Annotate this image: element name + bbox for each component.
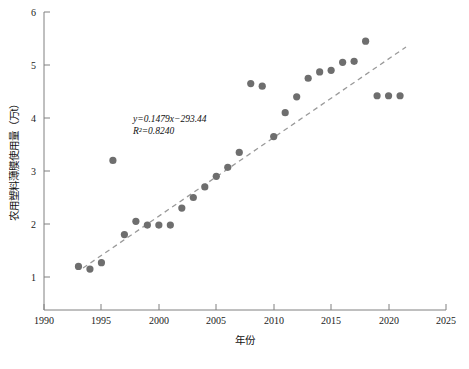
x-tick-label-2010: 2010	[264, 315, 284, 326]
data-point	[293, 93, 300, 100]
x-tick-label-2015: 2015	[321, 315, 341, 326]
data-point	[224, 164, 231, 171]
y-tick-label-3: 3	[31, 166, 36, 177]
y-tick-label-1: 1	[31, 272, 36, 283]
equation-line-2: R²=0.8240	[132, 126, 174, 136]
axes	[44, 12, 446, 310]
data-point	[396, 92, 403, 99]
x-tick-label-2020: 2020	[379, 315, 399, 326]
y-tick-label-5: 5	[31, 60, 36, 71]
data-point	[247, 80, 254, 87]
y-tick-label-6: 6	[31, 7, 36, 18]
data-point	[201, 183, 208, 190]
equation-line-1: y=0.1479x−293.44	[132, 114, 207, 124]
data-point	[178, 205, 185, 212]
y-tick-label-4: 4	[31, 113, 36, 124]
y-axis-tick-labels: 6 5 4 3 2 1	[31, 7, 36, 283]
data-point	[190, 194, 197, 201]
scatter-chart: 6 5 4 3 2 1 1990 1995 2000 2005 2010 201…	[0, 0, 469, 369]
data-point	[236, 149, 243, 156]
data-point	[316, 68, 323, 75]
x-tick-label-2025: 2025	[436, 315, 456, 326]
x-axis-title: 年份	[235, 334, 256, 346]
data-point-group	[75, 38, 404, 273]
data-point	[305, 75, 312, 82]
data-point	[167, 221, 174, 228]
y-axis-ticks	[44, 12, 50, 277]
regression-trendline	[83, 47, 406, 268]
data-point	[132, 218, 139, 225]
data-point	[362, 38, 369, 45]
data-point	[373, 92, 380, 99]
data-point	[75, 263, 82, 270]
x-axis-tick-labels: 1990 1995 2000 2005 2010 2015 2020 2025	[34, 315, 456, 326]
data-point	[385, 92, 392, 99]
x-tick-label-1995: 1995	[91, 315, 111, 326]
data-point	[282, 109, 289, 116]
x-axis-ticks	[44, 304, 446, 310]
data-point	[109, 157, 116, 164]
x-tick-label-2000: 2000	[149, 315, 169, 326]
data-point	[155, 221, 162, 228]
data-point	[259, 83, 266, 90]
trend-line-group	[83, 47, 406, 268]
data-point	[98, 259, 105, 266]
data-point	[270, 133, 277, 140]
data-point	[144, 221, 151, 228]
data-point	[121, 231, 128, 238]
data-point	[328, 67, 335, 74]
x-tick-label-2005: 2005	[206, 315, 226, 326]
y-axis-title: 农用塑料薄膜使用量（万t）	[8, 99, 20, 222]
figure-container: 6 5 4 3 2 1 1990 1995 2000 2005 2010 201…	[0, 0, 469, 369]
y-tick-label-2: 2	[31, 219, 36, 230]
data-point	[351, 58, 358, 65]
data-point	[213, 173, 220, 180]
x-tick-label-1990: 1990	[34, 315, 54, 326]
equation-annotation: y=0.1479x−293.44 R²=0.8240	[132, 114, 207, 136]
data-point	[86, 265, 93, 272]
data-point	[339, 59, 346, 66]
